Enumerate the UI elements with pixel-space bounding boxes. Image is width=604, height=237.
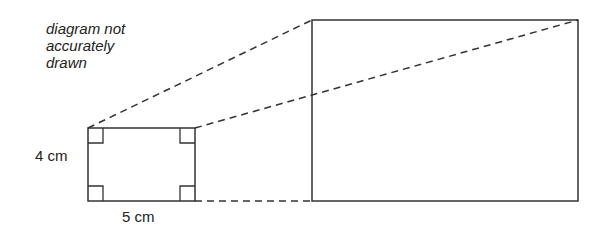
enlargement-diagram xyxy=(0,0,604,237)
height-label: 4 cm xyxy=(35,147,68,164)
right-angle-marker-bottom-left xyxy=(88,186,103,201)
small-rectangle xyxy=(88,128,195,201)
right-angle-marker-top-left xyxy=(88,128,103,143)
projection-line-top-right xyxy=(195,20,578,128)
projection-line-top-left xyxy=(88,20,312,128)
width-label: 5 cm xyxy=(122,208,155,225)
right-angle-marker-bottom-right xyxy=(180,186,195,201)
right-angle-marker-top-right xyxy=(180,128,195,143)
large-rectangle xyxy=(312,20,578,201)
